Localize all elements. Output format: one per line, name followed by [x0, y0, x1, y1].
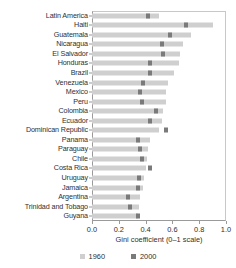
- chart-row: Ecuador: [92, 116, 226, 126]
- country-label: Panama: [62, 136, 88, 144]
- bar-1960: [92, 71, 174, 76]
- bar-1960: [92, 61, 179, 66]
- x-axis-tick: [146, 221, 147, 224]
- x-axis-tick: [226, 221, 227, 224]
- country-label: Guatemala: [54, 31, 88, 39]
- marker-2000: [136, 185, 140, 190]
- country-label: Dominican Republic: [26, 126, 88, 134]
- chart-row: Peru: [92, 97, 226, 107]
- country-label: Paraguay: [58, 145, 88, 153]
- bar-1960: [92, 90, 166, 95]
- chart-row: Chile: [92, 154, 226, 164]
- chart-row: Nicaragua: [92, 40, 226, 50]
- marker-2000: [136, 137, 140, 142]
- chart-row: Latin America: [92, 11, 226, 21]
- country-label: Venezuela: [55, 79, 88, 87]
- marker-2000: [148, 61, 152, 66]
- marker-2000: [140, 99, 144, 104]
- x-axis-tick: [199, 221, 200, 224]
- chart-row: Jamaica: [92, 183, 226, 193]
- marker-2000: [184, 23, 188, 28]
- country-label: Mexico: [66, 88, 88, 96]
- country-label: Argentina: [58, 193, 88, 201]
- x-axis-tick-label: 0.2: [114, 225, 124, 234]
- marker-2000: [140, 156, 144, 161]
- marker-2000: [138, 90, 142, 95]
- bar-1960: [92, 80, 168, 85]
- country-label: Colombia: [58, 107, 88, 115]
- bar-1960: [92, 23, 213, 28]
- legend-label: 1960: [89, 252, 105, 261]
- marker-2000: [146, 13, 150, 18]
- bar-1960: [92, 137, 150, 142]
- country-label: Brazil: [71, 69, 88, 77]
- x-axis-tick: [172, 221, 173, 224]
- country-label: Trinidad and Tobago: [25, 203, 88, 211]
- chart-row: Guatemala: [92, 30, 226, 40]
- legend-label: 2000: [140, 252, 156, 261]
- x-axis-tick-label: 0.4: [140, 225, 150, 234]
- plot-area: Latin AmericaHaitiGuatemalaNicaraguaEl S…: [92, 11, 226, 221]
- chart-legend: 19602000: [0, 252, 236, 261]
- country-label: Costa Rica: [54, 164, 88, 172]
- country-label: El Salvador: [52, 50, 88, 58]
- x-axis-tick: [92, 221, 93, 224]
- chart-row: Argentina: [92, 192, 226, 202]
- chart-row: Paraguay: [92, 145, 226, 155]
- chart-row: Guyana: [92, 211, 226, 221]
- bar-1960: [92, 214, 138, 219]
- bar-1960: [92, 166, 146, 171]
- marker-2000: [168, 32, 172, 37]
- marker-2000: [141, 80, 145, 85]
- marker-2000: [161, 51, 165, 56]
- chart-row: Costa Rica: [92, 164, 226, 174]
- legend-swatch-icon: [131, 254, 136, 259]
- chart-row: Dominican Republic: [92, 126, 226, 136]
- marker-2000: [160, 42, 164, 47]
- chart-row: Colombia: [92, 106, 226, 116]
- country-label: Guyana: [63, 212, 88, 220]
- bar-1960: [92, 51, 180, 56]
- marker-2000: [138, 147, 142, 152]
- x-axis-tick-label: 0.8: [194, 225, 204, 234]
- marker-2000: [128, 204, 132, 209]
- x-axis-tick-label: 0.0: [87, 225, 97, 234]
- marker-2000: [148, 166, 152, 171]
- legend-swatch-icon: [80, 254, 85, 259]
- chart-row: Venezuela: [92, 78, 226, 88]
- bar-1960: [92, 32, 191, 37]
- chart-row: Uruguay: [92, 173, 226, 183]
- marker-2000: [148, 71, 152, 76]
- country-label: Honduras: [58, 59, 88, 67]
- legend-item: 2000: [131, 252, 156, 261]
- legend-item: 1960: [80, 252, 105, 261]
- x-axis: Gini coefficient (0–1 scale) 0.00.20.40.…: [92, 221, 226, 247]
- country-label: Peru: [73, 98, 88, 106]
- marker-2000: [154, 109, 158, 114]
- bar-1960: [92, 109, 163, 114]
- country-label: Jamaica: [62, 184, 88, 192]
- x-axis-tick-label: 0.6: [167, 225, 177, 234]
- chart-row: Mexico: [92, 87, 226, 97]
- marker-2000: [164, 128, 168, 133]
- marker-2000: [126, 195, 130, 200]
- marker-2000: [136, 214, 140, 219]
- x-axis-tick-label: 1.0: [221, 225, 231, 234]
- marker-2000: [137, 176, 141, 181]
- chart-row: Brazil: [92, 68, 226, 78]
- country-label: Chile: [72, 155, 88, 163]
- bar-1960: [92, 195, 140, 200]
- country-label: Uruguay: [62, 174, 88, 182]
- country-label: Nicaragua: [56, 40, 88, 48]
- country-label: Latin America: [46, 12, 88, 20]
- country-label: Ecuador: [62, 117, 88, 125]
- chart-row: Panama: [92, 135, 226, 145]
- bar-1960: [92, 99, 166, 104]
- gini-coefficient-chart: Latin AmericaHaitiGuatemalaNicaraguaEl S…: [0, 0, 236, 268]
- country-label: Haiti: [74, 21, 88, 29]
- chart-row: Trinidad and Tobago: [92, 202, 226, 212]
- x-axis-tick: [119, 221, 120, 224]
- bar-1960: [92, 204, 139, 209]
- chart-row: Honduras: [92, 59, 226, 69]
- chart-row: El Salvador: [92, 49, 226, 59]
